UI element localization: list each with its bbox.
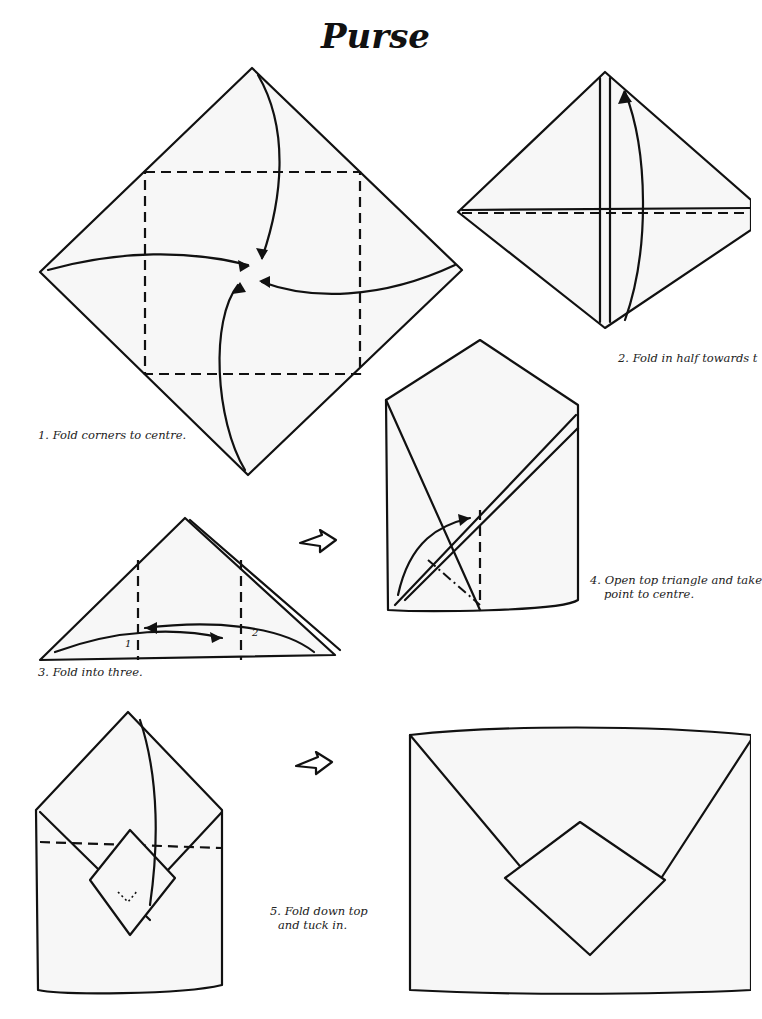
step-5-caption-line2: and tuck in.: [278, 918, 347, 932]
open-arrow-icon: [300, 530, 336, 552]
step-4-diagram: [386, 340, 578, 611]
fold-label-2: 2: [251, 627, 258, 638]
open-arrow-icon: [296, 752, 332, 774]
fold-label-1: 1: [125, 638, 131, 649]
step-3-diagram: 1 2: [40, 518, 340, 660]
step-2-diagram: [458, 72, 751, 328]
step-5-caption-line1: 5. Fold down top: [270, 904, 368, 918]
step-4-caption-line1: 4. Open top triangle and take: [590, 573, 762, 587]
finished-purse-diagram: [410, 728, 751, 994]
step-2-caption: 2. Fold in half towards t: [618, 351, 757, 365]
step-1-caption: 1. Fold corners to centre.: [38, 428, 186, 442]
step-4-caption-line2: point to centre.: [604, 587, 694, 601]
step-3-caption: 3. Fold into three.: [38, 665, 143, 679]
step-5-diagram: [36, 712, 222, 993]
